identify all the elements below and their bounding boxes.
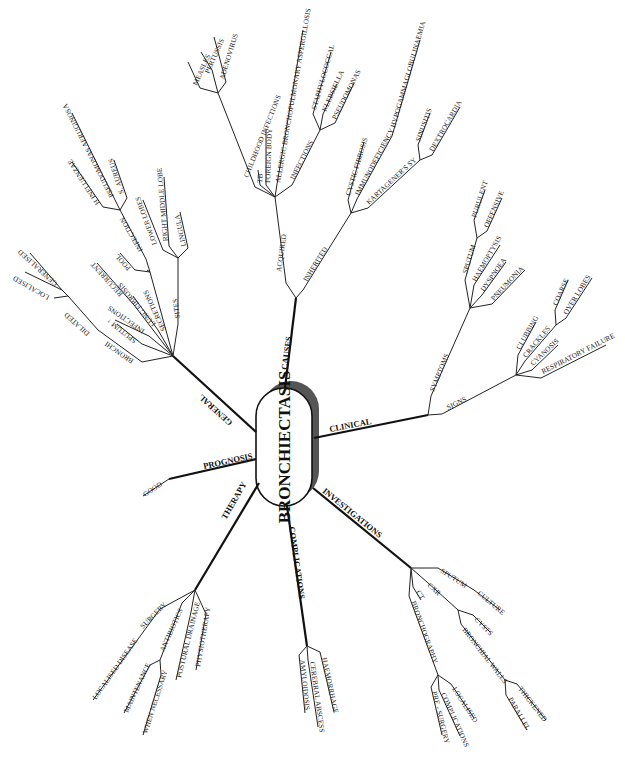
- branch-clinical[interactable]: CLINICAL SYMPTOMS SPUTUM PURULENT OFFENS…: [314, 179, 617, 438]
- antibiotics-label: ANTIBIOTICS: [159, 607, 185, 652]
- maintenance-label: MAINTENANCE: [123, 661, 153, 714]
- sinusitis-label: SINUSITIS: [414, 107, 433, 142]
- dextrocardia-label: DEXTROCARDIA: [428, 98, 464, 153]
- prognosis-label: PROGNOSIS: [202, 451, 253, 471]
- mind-map: BRONCHIECTASIS CAUSES ACQUIRED INHERITED…: [0, 0, 625, 765]
- bronchial-walls-label: BRONCHIAL WALLS: [460, 626, 509, 685]
- infections-label: INFECTIONS: [289, 139, 316, 181]
- pool-label: POOL: [114, 252, 133, 272]
- respiratory-failure-label: RESPIRATORY FAILURE: [540, 332, 616, 376]
- cysts-label: CYSTS: [473, 616, 495, 638]
- recurrent-label: RECURRENT: [89, 260, 124, 298]
- culture-label: CULTURE: [476, 589, 507, 617]
- branch-causes[interactable]: CAUSES ACQUIRED INHERITED CHILDHOOD INFE…: [188, 8, 464, 388]
- symptoms-label: SYMPTOMS: [428, 352, 450, 392]
- lingula-label: LINGULA: [173, 213, 188, 247]
- center-node[interactable]: BRONCHIECTASIS: [256, 371, 319, 524]
- therapy-label: THERAPY: [219, 480, 248, 521]
- branch-general[interactable]: GENERAL BRONCHI DILATED LOCALISED GENERA…: [12, 102, 256, 432]
- cxr-label: CXR: [426, 582, 443, 598]
- branch-complications[interactable]: COMPLICATIONS AMYLOIDOSIS CEREBRAL ABSCE…: [287, 506, 340, 733]
- offensive-label: OFFENSIVE: [483, 189, 507, 229]
- general-label: GENERAL: [196, 392, 234, 428]
- sites-label: SITES: [171, 298, 182, 319]
- right-middle-lobe-label: RIGHT MIDDLE LOBE: [156, 167, 170, 242]
- acquired-label: ACQUIRED: [275, 234, 288, 273]
- hypogammaglobulinaemia-label: HYPOGAMMAGLOBULINAEMIA: [389, 20, 427, 129]
- branch-investigations[interactable]: INVESTIGATIONS SPUTUM CULTURE CXR CYSTS …: [313, 486, 549, 749]
- center-label: BRONCHIECTASIS: [275, 371, 294, 524]
- causes-label: CAUSES: [279, 335, 294, 370]
- inv-sputum-label: SPUTUM: [439, 567, 469, 590]
- dilated-label: DILATED: [63, 311, 91, 338]
- secretion-infection-label: INFECTION: [118, 215, 145, 253]
- good-label: GOOD: [142, 480, 164, 498]
- investigations-label: INVESTIGATIONS: [321, 486, 385, 540]
- purulent-label: PURULENT: [470, 179, 490, 218]
- branch-therapy[interactable]: THERAPY SURGERY LOCALISED DISEASE ANTIBI…: [91, 480, 259, 735]
- foreign-body-label: FOREIGN BODY: [264, 128, 274, 183]
- inherited-label: INHERITED: [302, 246, 330, 284]
- complications-label: COMPLICATIONS: [287, 526, 307, 600]
- signs-label: SIGNS: [445, 395, 468, 412]
- bronchography-label: BRONCHOGRAPHY: [409, 600, 439, 665]
- surgery-label: SURGERY: [139, 600, 169, 630]
